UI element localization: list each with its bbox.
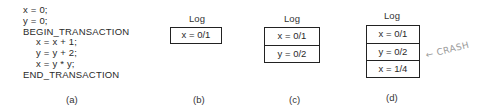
log-entry: x = 1/4 — [367, 60, 419, 77]
log-title-b: Log — [185, 13, 209, 24]
transaction-code: x = 0; y = 0; BEGIN_TRANSACTION x = x + … — [23, 5, 129, 81]
log-box-c: x = 0/1 y = 0/2 — [264, 27, 320, 63]
log-entry: y = 0/2 — [367, 43, 419, 60]
crash-annotation: ← CRASH — [424, 40, 470, 61]
log-entry: x = 0/1 — [171, 28, 221, 42]
code-line-end: END_TRANSACTION — [23, 70, 129, 81]
log-entry: x = 0/1 — [265, 28, 319, 45]
caption-a: (a) — [66, 94, 78, 105]
caption-b: (b) — [193, 94, 205, 105]
code-line: y = 0; — [23, 16, 129, 27]
log-box-b: x = 0/1 — [170, 27, 222, 44]
caption-c: (c) — [289, 94, 300, 105]
log-entry: x = 0/1 — [367, 26, 419, 43]
log-entry: y = 0/2 — [265, 45, 319, 62]
log-title-d: Log — [380, 10, 404, 21]
log-box-d: x = 0/1 y = 0/2 x = 1/4 — [366, 25, 420, 78]
caption-d: (d) — [386, 92, 398, 103]
log-title-c: Log — [280, 13, 304, 24]
